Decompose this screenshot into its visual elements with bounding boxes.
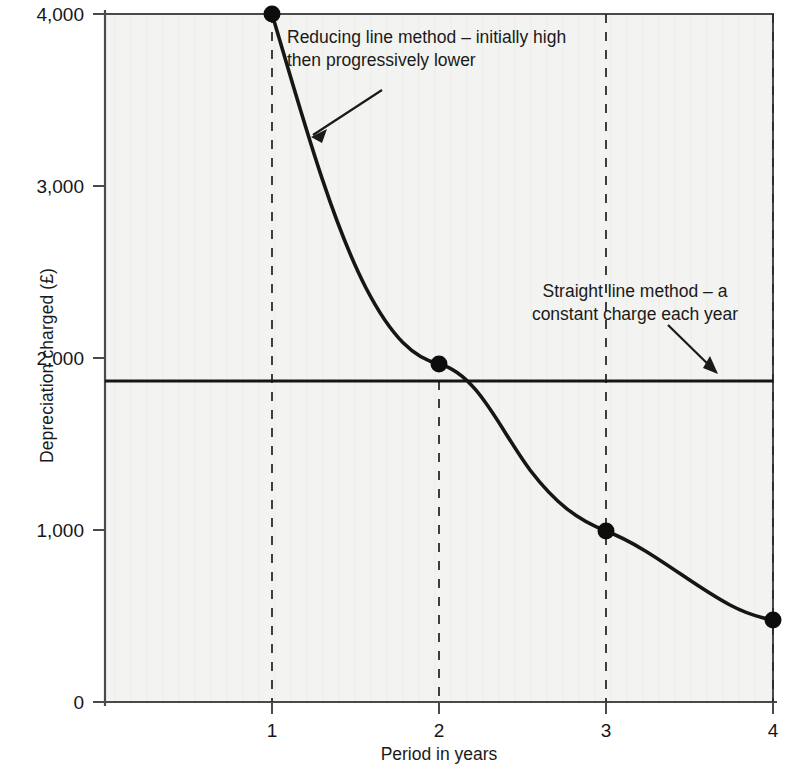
straight-line-annotation-line-2: constant charge each year <box>510 303 760 326</box>
x-axis-title: Period in years <box>105 744 773 765</box>
y-tick-label-0: 0 <box>2 693 84 712</box>
y-axis-ticks <box>93 14 105 702</box>
x-axis-ticks <box>272 702 773 714</box>
y-tick-label-1000: 1,000 <box>2 521 84 540</box>
straight-line-annotation-line-1: Straight line method – a <box>510 280 760 303</box>
y-tick-label-4000: 4,000 <box>2 5 84 24</box>
x-tick-label-4: 4 <box>753 721 790 740</box>
x-tick-label-3: 3 <box>586 721 626 740</box>
depreciation-methods-chart <box>0 0 790 779</box>
straight-line-annotation: Straight line method – a constant charge… <box>510 280 760 326</box>
reducing-line-annotation-line-1: Reducing line method – initially high <box>287 26 587 49</box>
x-tick-label-2: 2 <box>419 721 459 740</box>
y-tick-label-3000: 3,000 <box>2 177 84 196</box>
data-point-year-1 <box>264 6 281 23</box>
reducing-line-annotation: Reducing line method – initially high th… <box>287 26 587 72</box>
data-point-year-4 <box>765 612 782 629</box>
y-tick-label-2000: 2,000 <box>2 349 84 368</box>
reducing-line-annotation-line-2: then progressively lower <box>287 49 587 72</box>
data-point-year-3 <box>598 523 615 540</box>
data-point-year-2 <box>431 356 448 373</box>
x-tick-label-1: 1 <box>252 721 292 740</box>
chart-figure: Depreciation charged (£) 4,000 3,000 2,0… <box>0 0 790 779</box>
